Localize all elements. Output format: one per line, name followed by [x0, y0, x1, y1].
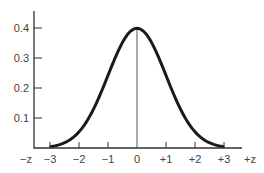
y-tick-label: 0.4	[14, 22, 29, 34]
x-tick-label: +z	[244, 153, 256, 165]
y-tick-label: 0.3	[14, 52, 29, 64]
x-tick-label: +2	[189, 153, 202, 165]
y-tick-label: 0.2	[14, 82, 29, 94]
x-axis-labels: −z−3−2−10+1+2+3+z	[20, 153, 256, 165]
x-tick-label: +3	[218, 153, 231, 165]
x-tick-label: +1	[160, 153, 173, 165]
x-tick-label: −z	[20, 153, 32, 165]
y-axis-ticks	[34, 28, 42, 118]
x-tick-label: −1	[102, 153, 115, 165]
x-tick-label: 0	[134, 153, 140, 165]
x-tick-label: −3	[44, 153, 57, 165]
normal-distribution-chart: −z−3−2−10+1+2+3+z 0.10.20.30.4	[0, 0, 264, 173]
y-axis-labels: 0.10.20.30.4	[14, 22, 29, 124]
y-tick-label: 0.1	[14, 112, 29, 124]
chart-axes	[34, 11, 242, 148]
x-tick-label: −2	[73, 153, 86, 165]
